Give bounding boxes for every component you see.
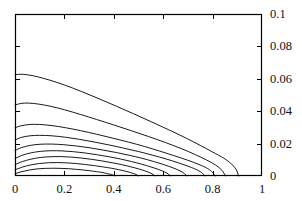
y-axis-tick-label: 0 — [270, 170, 276, 183]
x-axis-tick-label: 0.6 — [155, 183, 171, 196]
contour-plot-canvas — [0, 0, 302, 201]
y-axis-tick-label: 0.1 — [270, 8, 286, 21]
contour-plot-figure: 00.20.40.60.81 00.020.040.060.080.1 — [0, 0, 302, 201]
x-axis-tick-label: 0.8 — [205, 183, 221, 196]
y-axis-tick-label: 0.08 — [270, 40, 292, 53]
x-axis-tick-label: 0.2 — [57, 183, 73, 196]
y-axis-tick-label: 0.02 — [270, 137, 292, 150]
y-axis-tick-label: 0.04 — [270, 105, 292, 118]
x-axis-tick-label: 0 — [12, 183, 18, 196]
x-axis-tick-label: 0.4 — [106, 183, 122, 196]
y-axis-tick-label: 0.06 — [270, 73, 292, 86]
x-axis-tick-label: 1 — [259, 183, 265, 196]
plot-background — [0, 0, 302, 201]
